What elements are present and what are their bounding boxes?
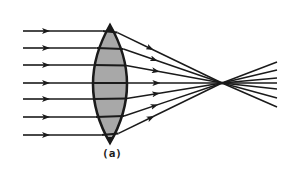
ray-in-lens bbox=[94, 65, 126, 66]
refracted-ray-arrow bbox=[117, 33, 151, 50]
refracted-ray-arrow bbox=[126, 93, 158, 98]
incoming-rays bbox=[23, 31, 103, 135]
refracted-ray bbox=[156, 60, 222, 83]
lens-diagram bbox=[0, 0, 293, 175]
figure-caption: (a) bbox=[97, 147, 127, 160]
refracted-ray bbox=[156, 83, 222, 105]
ray-in-lens bbox=[96, 116, 124, 117]
refracted-ray bbox=[152, 49, 222, 83]
diverging-rays bbox=[222, 62, 277, 107]
refracted-ray-arrow bbox=[126, 66, 158, 72]
refracted-ray-arrow bbox=[123, 49, 156, 60]
refracted-ray bbox=[158, 71, 222, 83]
ray-in-lens bbox=[97, 48, 124, 49]
refracted-ray-arrow bbox=[124, 105, 156, 116]
converging-lens bbox=[93, 24, 127, 144]
refracted-ray-arrow bbox=[119, 117, 153, 134]
focal-point bbox=[221, 82, 224, 85]
refracted-rays bbox=[117, 33, 222, 134]
